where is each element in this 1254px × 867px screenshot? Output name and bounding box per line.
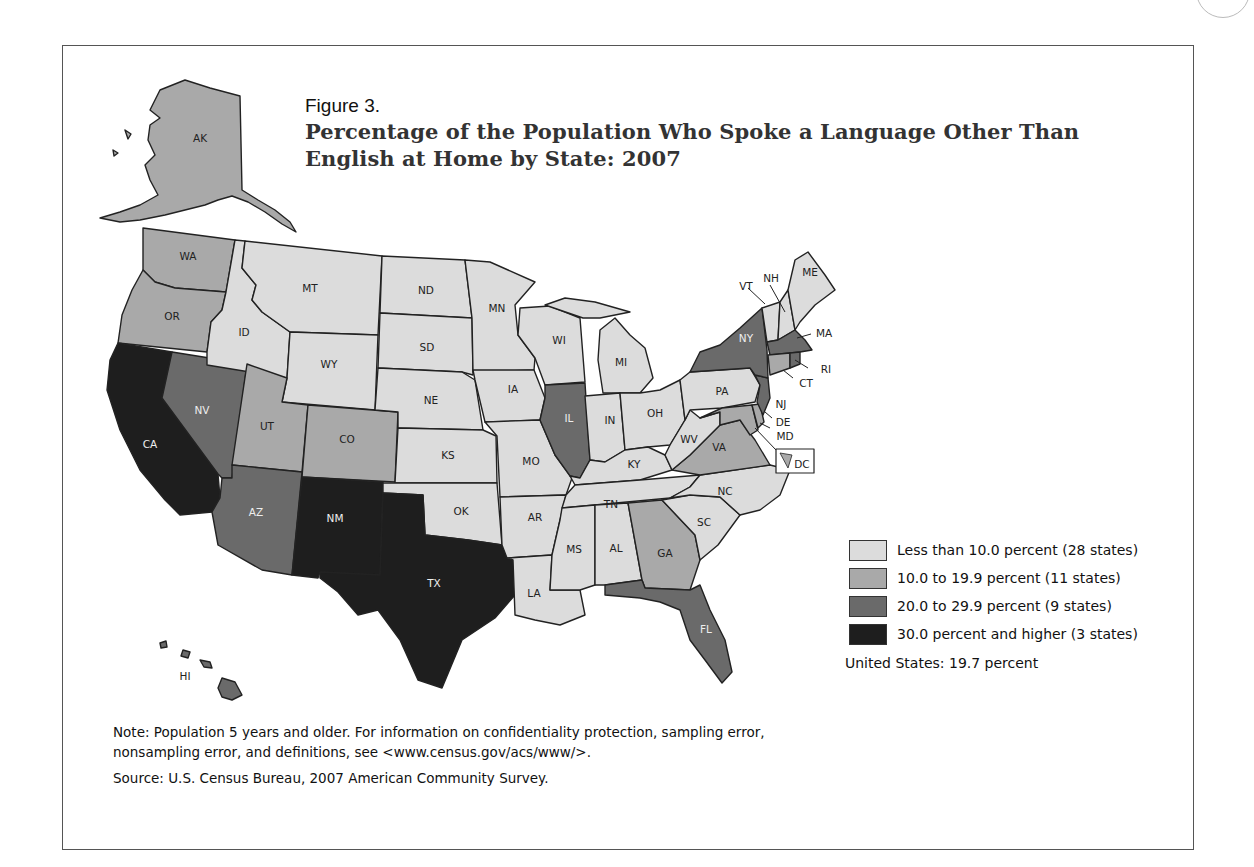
state-me: [788, 252, 835, 330]
label-ar: AR: [528, 511, 542, 523]
label-nv: NV: [194, 404, 210, 416]
label-ne: NE: [424, 394, 439, 406]
note-line-1: Note: Population 5 years and older. For …: [113, 722, 765, 742]
label-ct: CT: [799, 377, 813, 389]
legend-item-20-to-29: 20.0 to 29.9 percent (9 states): [849, 592, 1138, 620]
label-nh: NH: [763, 272, 779, 284]
ak-islands: [113, 130, 131, 156]
label-ok: OK: [453, 505, 469, 517]
legend-swatch: [849, 568, 887, 589]
label-sd: SD: [420, 341, 435, 353]
label-wi: WI: [552, 334, 565, 346]
state-in: [585, 393, 625, 462]
label-hi: HI: [180, 670, 191, 682]
label-il: IL: [565, 412, 574, 424]
legend-item-10-to-19: 10.0 to 19.9 percent (11 states): [849, 564, 1138, 592]
label-nd: ND: [418, 284, 434, 296]
state-hi: [160, 641, 242, 700]
label-vt: VT: [739, 280, 753, 292]
label-mo: MO: [522, 455, 539, 467]
label-md: MD: [776, 430, 793, 442]
label-ut: UT: [260, 420, 275, 432]
label-ks: KS: [441, 449, 455, 461]
label-mn: MN: [489, 302, 506, 314]
label-ny: NY: [739, 332, 754, 344]
label-ga: GA: [657, 547, 673, 559]
legend-label: 30.0 percent and higher (3 states): [897, 626, 1138, 642]
label-tx: TX: [426, 577, 441, 589]
label-pa: PA: [716, 385, 730, 397]
state-wy: [282, 332, 378, 410]
legend: Less than 10.0 percent (28 states) 10.0 …: [849, 536, 1138, 648]
label-mi: MI: [615, 356, 627, 368]
legend-swatch: [849, 540, 887, 561]
label-nj: NJ: [776, 398, 787, 410]
label-in: IN: [605, 414, 616, 426]
label-al: AL: [609, 542, 622, 554]
note-text: Note: Population 5 years and older. For …: [113, 722, 765, 762]
label-ma: MA: [816, 327, 833, 339]
state-ny: [690, 308, 768, 378]
label-va: VA: [712, 441, 727, 453]
label-co: CO: [339, 433, 355, 445]
label-wv: WV: [680, 433, 698, 445]
state-ct: [768, 353, 790, 375]
label-ky: KY: [628, 458, 642, 470]
legend-swatch: [849, 624, 887, 645]
label-fl: FL: [700, 623, 712, 635]
state-az: [212, 465, 302, 575]
label-la: LA: [527, 587, 541, 599]
label-nc: NC: [717, 485, 732, 497]
label-ia: IA: [508, 383, 519, 395]
label-az: AZ: [249, 506, 263, 518]
label-me: ME: [802, 266, 818, 278]
label-or: OR: [164, 310, 180, 322]
label-ms: MS: [566, 543, 582, 555]
label-wa: WA: [180, 250, 198, 262]
label-mt: MT: [302, 282, 318, 294]
source-text: Source: U.S. Census Bureau, 2007 America…: [113, 770, 548, 786]
label-tn: TN: [603, 498, 618, 510]
note-line-2: nonsampling error, and definitions, see …: [113, 742, 765, 762]
label-ak: AK: [193, 132, 208, 144]
label-ri: RI: [821, 363, 831, 375]
legend-label: 10.0 to 19.9 percent (11 states): [897, 570, 1121, 586]
label-oh: OH: [647, 407, 663, 419]
legend-item-less-than-10: Less than 10.0 percent (28 states): [849, 536, 1138, 564]
label-sc: SC: [697, 516, 711, 528]
label-ca: CA: [143, 438, 158, 450]
legend-label: Less than 10.0 percent (28 states): [897, 542, 1138, 558]
state-ia: [473, 370, 545, 422]
state-nm: [292, 477, 383, 578]
label-nm: NM: [327, 512, 344, 524]
state-ak: [100, 80, 296, 232]
label-wy: WY: [321, 358, 338, 370]
label-dc: DC: [794, 458, 809, 470]
legend-item-30-and-higher: 30.0 percent and higher (3 states): [849, 620, 1138, 648]
label-id: ID: [238, 326, 249, 338]
label-de: DE: [776, 416, 791, 428]
legend-label: 20.0 to 29.9 percent (9 states): [897, 598, 1112, 614]
legend-swatch: [849, 596, 887, 617]
us-total: United States: 19.7 percent: [845, 655, 1038, 671]
state-fl: [605, 580, 732, 683]
